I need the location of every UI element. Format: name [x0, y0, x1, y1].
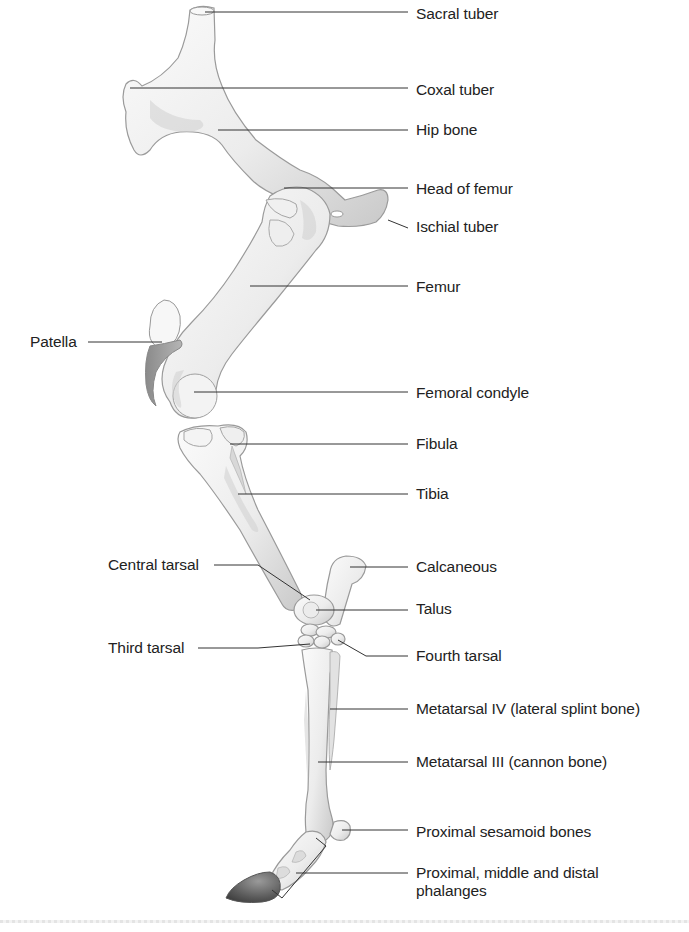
- label-sacral-tuber: Sacral tuber: [416, 5, 498, 23]
- hip-bone-shape: [123, 6, 388, 226]
- label-central-tarsal: Central tarsal: [108, 556, 199, 574]
- label-head-of-femur: Head of femur: [416, 180, 513, 198]
- label-fourth-tarsal: Fourth tarsal: [416, 647, 502, 665]
- label-patella: Patella: [30, 333, 77, 351]
- label-coxal-tuber: Coxal tuber: [416, 81, 494, 99]
- leader-line-fourth-tarsal: [338, 640, 408, 656]
- leader-line-third-tarsal: [198, 644, 310, 648]
- horse-hindlimb-skeleton-diagram: [0, 0, 689, 932]
- label-calcaneous: Calcaneous: [416, 558, 497, 576]
- femur-shape: [162, 187, 330, 418]
- label-tibia: Tibia: [416, 485, 449, 503]
- label-third-tarsal: Third tarsal: [108, 639, 184, 657]
- metatarsal-bones-shape: [302, 648, 340, 841]
- label-metatarsal-iii: Metatarsal III (cannon bone): [416, 753, 607, 771]
- label-hip-bone: Hip bone: [416, 121, 477, 139]
- label-proximal-sesamoid: Proximal sesamoid bones: [416, 823, 591, 841]
- tarsal-bones-shape: [294, 556, 366, 648]
- label-metatarsal-iv: Metatarsal IV (lateral splint bone): [416, 700, 640, 718]
- leader-line-ischial-tuber: [388, 220, 408, 228]
- label-ischial-tuber: Ischial tuber: [416, 218, 498, 236]
- label-phalanges: Proximal, middle and distal phalanges: [416, 864, 656, 900]
- label-fibula: Fibula: [416, 435, 458, 453]
- label-femoral-condyle: Femoral condyle: [416, 384, 529, 402]
- label-talus: Talus: [416, 600, 452, 618]
- bottom-divider: [0, 920, 689, 923]
- label-femur: Femur: [416, 278, 460, 296]
